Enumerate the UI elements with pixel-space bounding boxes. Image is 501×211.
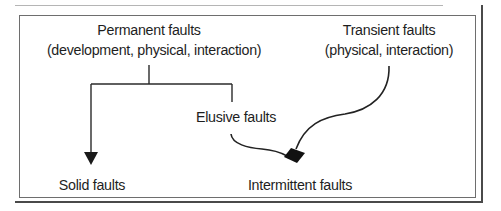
elusive-faults-label: Elusive faults <box>185 107 286 127</box>
permanent-faults-label: Permanent faults (development, physical,… <box>47 20 251 60</box>
transient-to-intermittent-curve <box>296 66 389 149</box>
solid-faults-label: Solid faults <box>51 175 134 195</box>
permanent-faults-title: Permanent faults <box>47 20 251 40</box>
intermittent-faults-title: Intermittent faults <box>241 175 359 195</box>
solid-faults-title: Solid faults <box>51 175 134 195</box>
elusive-faults-title: Elusive faults <box>185 107 286 127</box>
transient-faults-subtitle: (physical, interaction) <box>320 40 458 60</box>
permanent-faults-subtitle: (development, physical, interaction) <box>47 40 251 60</box>
transient-faults-title: Transient faults <box>320 20 458 40</box>
fault-classification-diagram: Permanent faults (development, physical,… <box>0 0 501 211</box>
elusive-to-intermittent-curve <box>231 134 287 156</box>
intermittent-faults-label: Intermittent faults <box>241 175 359 195</box>
transient-faults-label: Transient faults (physical, interaction) <box>320 20 458 60</box>
solid-arrowhead-icon <box>84 152 98 165</box>
intermittent-junction-icon <box>284 148 305 163</box>
